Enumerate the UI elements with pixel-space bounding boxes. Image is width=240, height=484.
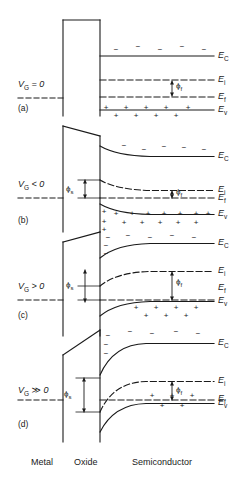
phi-f-arrowhead-up-c xyxy=(170,272,174,276)
ei-label-d: Ei xyxy=(218,376,225,387)
hole-glyph: + xyxy=(178,209,183,218)
panel-id-c: (c) xyxy=(18,311,28,320)
ev-label-d: Ev xyxy=(218,398,227,409)
ei-line-c xyxy=(100,272,214,287)
electron-glyph: − xyxy=(170,231,175,240)
electron-glyph: − xyxy=(192,233,197,242)
bias-label-a: VG = 0 xyxy=(18,80,44,91)
electron-glyph: − xyxy=(104,340,109,349)
bias-label-c: VG > 0 xyxy=(18,282,44,293)
ef-label-c: Ef xyxy=(218,283,226,294)
hole-glyph: + xyxy=(104,103,109,112)
hole-glyph: + xyxy=(180,401,185,410)
electron-glyph: − xyxy=(158,45,163,54)
hole-glyph: + xyxy=(190,391,195,400)
ev-label-c: Ev xyxy=(218,296,227,307)
phi-s-label-b: ϕs xyxy=(66,185,73,195)
ec-line-b xyxy=(100,146,214,157)
oxide-top-d xyxy=(63,330,100,355)
phi-s-arrowhead-up-c xyxy=(83,270,87,274)
hole-glyph: + xyxy=(174,111,179,120)
hole-glyph: + xyxy=(144,103,149,112)
ec-label-c: EC xyxy=(218,238,229,249)
electron-glyph: − xyxy=(202,45,207,54)
ec-line-c xyxy=(100,244,214,259)
panel-id-d: (d) xyxy=(18,420,28,429)
hole-glyph: + xyxy=(114,111,119,120)
phi-f-label-b: ϕf xyxy=(176,188,182,198)
region-label-semiconductor: Semiconductor xyxy=(132,458,192,467)
phi-f-arrowhead-up-b xyxy=(170,191,174,195)
hole-glyph: + xyxy=(130,209,135,218)
hole-glyph: + xyxy=(174,303,179,312)
electron-glyph: − xyxy=(104,249,109,258)
ec-label-d: EC xyxy=(218,338,229,349)
hole-glyph: + xyxy=(162,209,167,218)
electron-glyph: − xyxy=(126,231,131,240)
phi-s-label-c: ϕs xyxy=(66,281,73,291)
region-label-metal: Metal xyxy=(31,458,53,467)
ev-line-d xyxy=(100,404,214,433)
phi-f-arrowhead-down-a xyxy=(170,93,174,97)
electron-glyph: − xyxy=(150,329,155,338)
ec-label-a: EC xyxy=(218,51,229,62)
hole-glyph: + xyxy=(206,209,211,218)
ei-line-b xyxy=(100,180,214,191)
hole-glyph: + xyxy=(144,311,149,320)
hole-glyph: + xyxy=(164,311,169,320)
electron-glyph: − xyxy=(122,141,127,150)
ev-label-a: Ev xyxy=(218,105,227,116)
ec-label-b: EC xyxy=(218,151,229,162)
electron-glyph: − xyxy=(128,327,133,336)
ev-label-b: Ev xyxy=(218,209,227,220)
hole-glyph: + xyxy=(186,103,191,112)
bias-label-b: VG < 0 xyxy=(18,180,44,191)
electron-glyph: − xyxy=(162,142,167,151)
ei-line-d xyxy=(100,382,214,413)
hole-glyph: + xyxy=(122,218,127,227)
ec-line-d xyxy=(100,344,214,376)
hole-glyph: + xyxy=(124,103,129,112)
hole-glyph: + xyxy=(114,209,119,218)
mos-band-diagram-figure: − − − − − + + + + + + + + + − − − − − + … xyxy=(0,0,240,484)
electron-glyph: − xyxy=(136,42,141,51)
hole-glyph: + xyxy=(194,303,199,312)
phi-f-label-d: ϕf xyxy=(176,386,182,396)
hole-glyph: + xyxy=(194,218,199,227)
hole-glyph: + xyxy=(140,218,145,227)
hole-glyph: + xyxy=(134,111,139,120)
hole-glyph: + xyxy=(170,391,175,400)
hole-glyph: + xyxy=(160,401,165,410)
phi-s-arrowhead-down-c xyxy=(83,299,87,303)
phi-f-arrowhead-up-d xyxy=(170,382,174,386)
bias-label-d: VG ≫ 0 xyxy=(18,386,49,397)
oxide-top-b xyxy=(63,126,100,136)
hole-glyph: + xyxy=(194,209,199,218)
electron-glyph: − xyxy=(182,143,187,152)
hole-glyph: + xyxy=(164,103,169,112)
phi-f-label-c: ϕf xyxy=(176,278,182,288)
electron-glyph: − xyxy=(174,327,179,336)
electron-glyph: − xyxy=(148,233,153,242)
ei-label-a: Ei xyxy=(218,75,225,86)
hole-glyph: + xyxy=(158,218,163,227)
ei-label-c: Ei xyxy=(218,266,225,277)
hole-glyph: + xyxy=(184,311,189,320)
electron-glyph: − xyxy=(202,145,207,154)
hole-glyph: + xyxy=(102,207,107,216)
oxide-top-c xyxy=(63,232,100,242)
panel-a-graphic xyxy=(18,20,214,116)
hole-glyph: + xyxy=(154,303,159,312)
electron-glyph: − xyxy=(196,329,201,338)
hole-glyph: + xyxy=(154,111,159,120)
panel-id-b: (b) xyxy=(18,216,28,225)
hole-glyph: + xyxy=(146,209,151,218)
ef-label-a: Ef xyxy=(218,92,226,103)
electron-glyph: − xyxy=(104,349,109,358)
phi-s-label-d: ϕs xyxy=(64,390,71,400)
electron-glyph: − xyxy=(142,145,147,154)
phi-f-label-a: ϕf xyxy=(176,82,182,92)
electron-glyph: − xyxy=(114,45,119,54)
electron-glyph: − xyxy=(180,42,185,51)
phi-f-arrowhead-up-a xyxy=(170,81,174,85)
